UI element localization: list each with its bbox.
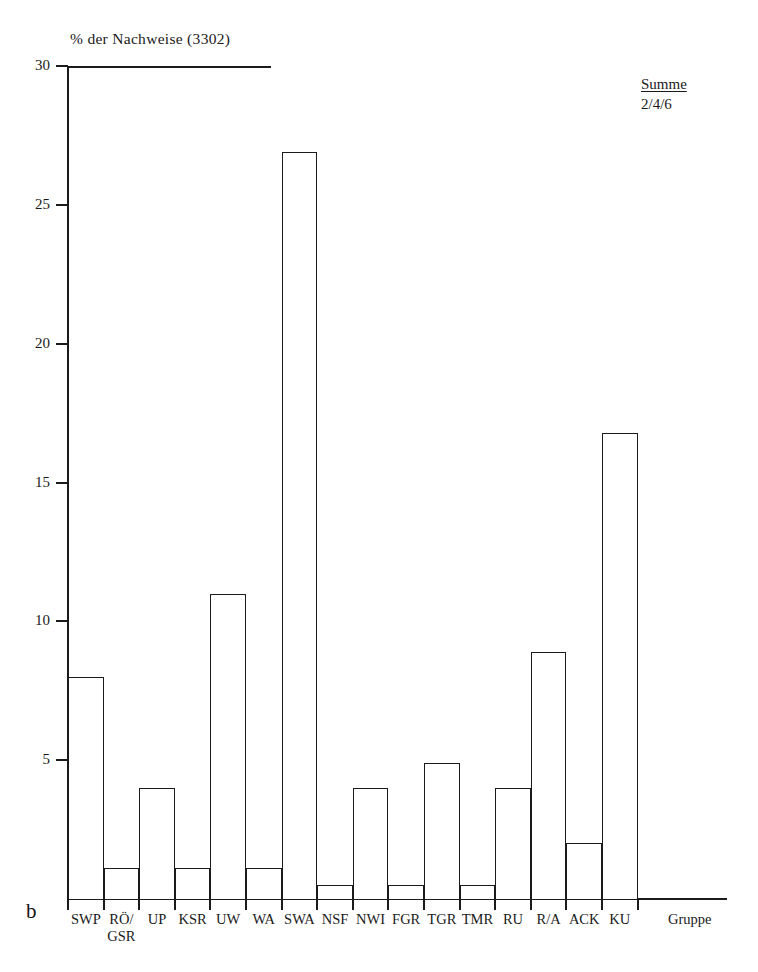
y-tick-label: 20: [8, 336, 50, 351]
bar: [460, 885, 496, 899]
bar: [424, 763, 460, 899]
x-tick: [103, 900, 105, 910]
bar-chart-figure: % der Nachweise (3302) Summe 2/4/6 b 510…: [0, 0, 758, 972]
y-tick-label: 10: [8, 613, 50, 628]
summe-value: 2/4/6: [641, 94, 687, 114]
x-tick: [423, 900, 425, 910]
bar: [531, 652, 567, 899]
x-tick: [281, 900, 283, 910]
y-tick-label: 15: [8, 475, 50, 490]
x-tick: [530, 900, 532, 910]
bar: [566, 843, 602, 899]
bar: [104, 868, 140, 899]
y-tick-label: 30: [8, 58, 50, 73]
x-tick: [352, 900, 354, 910]
top-rule-line: [67, 66, 271, 68]
bar: [353, 788, 389, 899]
x-tick: [245, 900, 247, 910]
x-tick: [316, 900, 318, 910]
bar: [282, 152, 318, 899]
bar: [495, 788, 531, 899]
x-category-label: KU: [596, 911, 644, 928]
x-tick: [494, 900, 496, 910]
y-tick: [56, 204, 68, 206]
bar: [139, 788, 175, 899]
bar: [210, 594, 246, 899]
x-tick: [387, 900, 389, 910]
y-axis-title: % der Nachweise (3302): [70, 30, 230, 48]
x-tick: [174, 900, 176, 910]
summe-annotation: Summe 2/4/6: [641, 74, 687, 114]
x-axis-label: Gruppe: [668, 911, 712, 928]
bar: [175, 868, 211, 899]
x-tick: [565, 900, 567, 910]
y-tick: [56, 65, 68, 67]
x-tick: [67, 900, 69, 910]
y-tick-label: 5: [8, 752, 50, 767]
x-tick: [637, 900, 639, 910]
bar: [317, 885, 353, 899]
bar: [68, 677, 104, 899]
x-tick: [601, 900, 603, 910]
summe-heading: Summe: [641, 74, 687, 94]
y-tick: [56, 482, 68, 484]
y-tick: [56, 620, 68, 622]
bar: [388, 885, 424, 899]
x-tick: [209, 900, 211, 910]
y-tick: [56, 759, 68, 761]
bar: [602, 433, 638, 899]
x-tick: [459, 900, 461, 910]
y-tick-label: 25: [8, 197, 50, 212]
x-tick: [138, 900, 140, 910]
bar: [246, 868, 282, 899]
panel-label: b: [26, 899, 37, 923]
y-tick: [56, 343, 68, 345]
